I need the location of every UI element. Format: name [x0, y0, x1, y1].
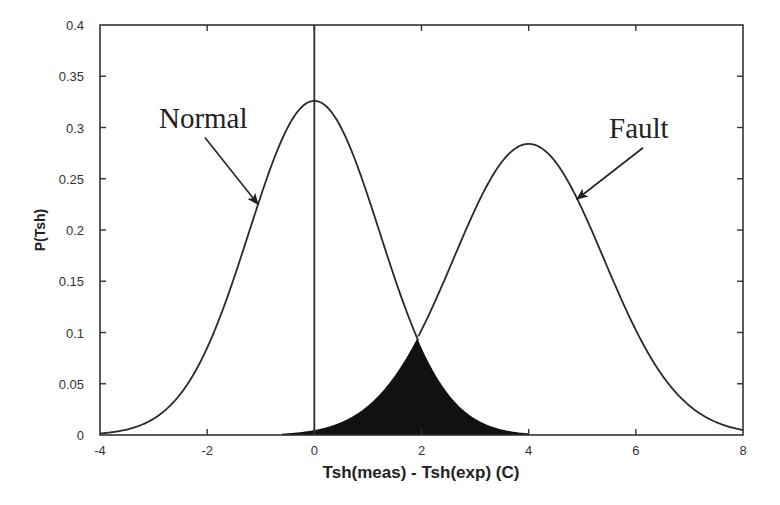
- x-axis-title: Tsh(meas) - Tsh(exp) (C): [323, 463, 520, 482]
- annotation-fault: Fault: [609, 112, 669, 144]
- y-tick-label: 0.25: [59, 172, 84, 187]
- x-tick-label: 2: [418, 443, 425, 458]
- x-tick-label: -2: [201, 443, 213, 458]
- x-tick-label: -4: [94, 443, 106, 458]
- y-tick-label: 0.15: [59, 274, 84, 289]
- x-tick-label: 6: [632, 443, 639, 458]
- annotation-normal: Normal: [159, 102, 248, 134]
- y-tick-label: 0.4: [66, 18, 84, 33]
- y-axis-title: P(Tsh): [32, 209, 48, 252]
- y-tick-label: 0.35: [59, 69, 84, 84]
- y-tick-label: 0.1: [66, 326, 84, 341]
- y-tick-label: 0.2: [66, 223, 84, 238]
- annotations: NormalFault: [159, 102, 669, 205]
- x-tick-label: 8: [739, 443, 746, 458]
- y-tick-label: 0: [77, 428, 84, 443]
- overlap-shaded-region: [282, 338, 528, 435]
- x-tick-label: 0: [311, 443, 318, 458]
- x-tick-label: 4: [525, 443, 532, 458]
- y-tick-label: 0.05: [59, 377, 84, 392]
- normal-distribution-curve: [100, 101, 418, 434]
- y-tick-label: 0.3: [66, 121, 84, 136]
- chart: -4-202468 00.050.10.150.20.250.30.350.4 …: [0, 0, 780, 505]
- annotation-arrow-normal: [205, 138, 258, 205]
- plot-area: -4-202468 00.050.10.150.20.250.30.350.4: [59, 18, 747, 458]
- annotation-arrow-fault: [577, 148, 643, 200]
- fault-distribution-curve: [418, 144, 743, 430]
